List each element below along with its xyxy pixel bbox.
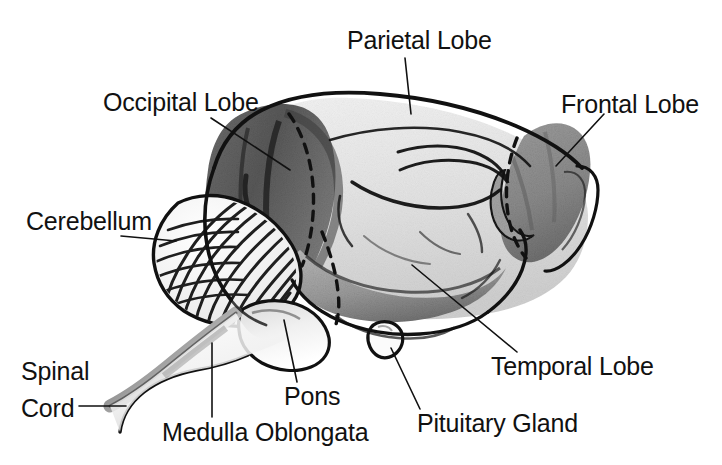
label-temporal-lobe: Temporal Lobe <box>491 353 654 379</box>
brain-anatomy-diagram: Parietal Lobe Occipital Lobe Frontal Lob… <box>0 0 722 465</box>
label-frontal-lobe: Frontal Lobe <box>561 91 699 117</box>
label-spinal-cord-line2: Cord <box>21 395 74 421</box>
pituitary-gland-region <box>368 322 403 358</box>
label-medulla-oblongata: Medulla Oblongata <box>162 419 368 445</box>
label-pituitary-gland: Pituitary Gland <box>417 410 578 436</box>
label-occipital-lobe: Occipital Lobe <box>103 89 259 115</box>
label-pons: Pons <box>284 383 340 409</box>
label-spinal-cord-line1: Spinal <box>21 358 89 384</box>
pituitary-gland-leader <box>391 348 420 409</box>
label-parietal-lobe: Parietal Lobe <box>347 27 492 53</box>
label-cerebellum: Cerebellum <box>26 208 152 234</box>
